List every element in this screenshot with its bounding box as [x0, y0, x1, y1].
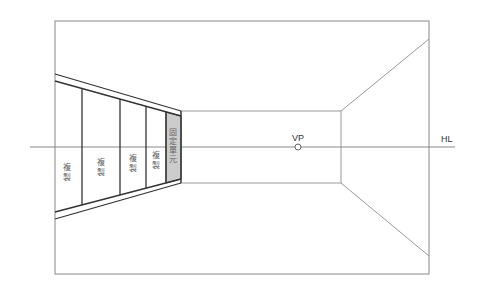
panel-label: 製 — [63, 172, 71, 182]
panel-label: 複 — [97, 157, 105, 167]
top-rail-inner — [55, 81, 181, 116]
top-rail-outer — [55, 74, 181, 111]
fixed-unit-label: 固 — [169, 128, 177, 137]
right-floor-edge — [341, 183, 429, 256]
panel-label: 製 — [97, 167, 105, 177]
panel-label: 複 — [129, 153, 137, 163]
fixed-unit-label: 元 — [169, 155, 177, 164]
bottom-rail-outer — [55, 183, 181, 219]
panel-label: 複 — [63, 162, 71, 172]
horizon-line-label: HL — [441, 134, 453, 144]
vanishing-point-label: VP — [292, 133, 304, 143]
perspective-diagram: 複 製 複 製 複 製 複 製 固 定 單 元 VP HL — [0, 0, 478, 290]
fixed-unit-label: 定 — [169, 136, 177, 146]
panel-label: 複 — [152, 150, 160, 160]
right-ceiling-edge — [341, 39, 429, 111]
fixed-unit-label: 單 — [169, 146, 177, 155]
vanishing-point-marker — [295, 144, 301, 150]
panel-label: 製 — [152, 160, 160, 170]
bottom-rail-inner — [55, 179, 181, 212]
panel-label: 製 — [129, 163, 137, 173]
